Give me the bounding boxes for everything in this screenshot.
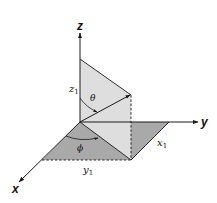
z-axis-label: z [76, 19, 83, 33]
y1-label: y1 [82, 164, 93, 177]
coordinate-diagram: z y x z1 θ ϕ x1 y1 [0, 0, 217, 203]
x-axis-label: x [11, 182, 20, 196]
y-axis-label: y [200, 115, 209, 129]
x1-label: x1 [157, 137, 167, 150]
theta-label: θ [90, 93, 96, 103]
phi-label: ϕ [77, 143, 83, 153]
z1-label: z1 [68, 83, 79, 96]
